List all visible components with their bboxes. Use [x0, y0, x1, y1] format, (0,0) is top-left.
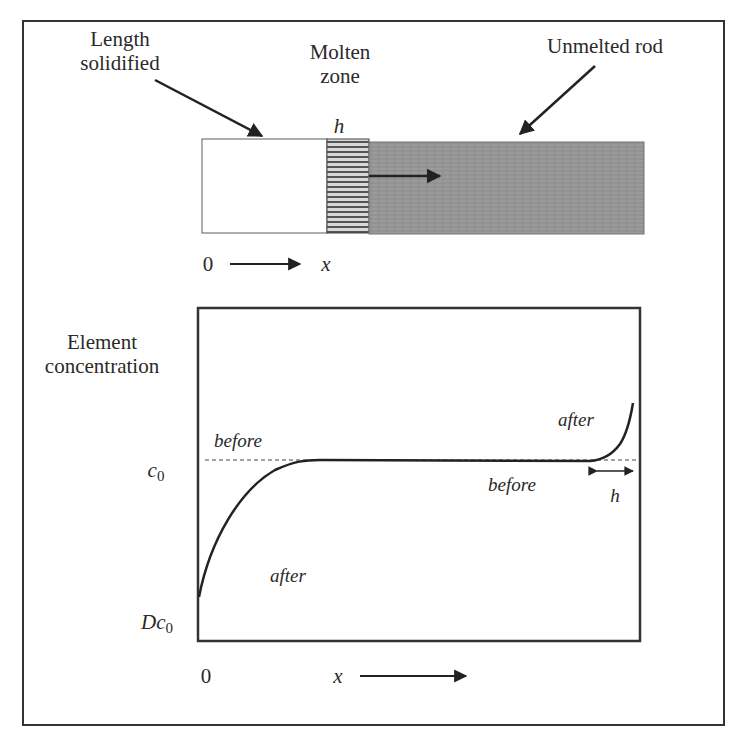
label-line: concentration: [27, 354, 177, 378]
dc0-main: Dc: [141, 610, 166, 634]
h-label-bottom: h: [608, 484, 622, 508]
dc0-sub: 0: [166, 620, 174, 636]
molten-zone-region: [327, 139, 369, 233]
before-label-right: before: [482, 473, 542, 497]
label-line: zone: [300, 64, 380, 88]
label-line: Length: [70, 27, 170, 51]
molten-zone-label: Molten zone: [300, 40, 380, 88]
y-axis-label: Element concentration: [27, 330, 177, 378]
h-label-top: h: [329, 114, 349, 138]
top-origin-label: 0: [200, 252, 216, 276]
bottom-x-label: x: [330, 664, 346, 688]
unmelted-rod-label: Unmelted rod: [530, 34, 680, 58]
chart-plot-area: [198, 308, 640, 641]
top-x-label: x: [318, 252, 334, 276]
bottom-origin-label: 0: [198, 664, 214, 688]
unmelted-pointer-arrow: [520, 66, 595, 134]
label-line: Element: [27, 330, 177, 354]
unmelted-rod-region: [369, 142, 644, 234]
label-line: Molten: [300, 40, 380, 64]
c0-tick-label: c0: [136, 458, 176, 488]
after-label-right: after: [552, 408, 600, 432]
after-label-left: after: [264, 564, 312, 588]
c0-sub: 0: [157, 468, 165, 484]
solidified-pointer-arrow: [155, 80, 262, 136]
c0-main: c: [148, 458, 157, 482]
label-line: solidified: [70, 51, 170, 75]
length-solidified-label: Length solidified: [70, 27, 170, 75]
before-label-left: before: [208, 429, 268, 453]
dc0-tick-label: Dc0: [132, 610, 182, 640]
solidified-region: [202, 139, 327, 233]
